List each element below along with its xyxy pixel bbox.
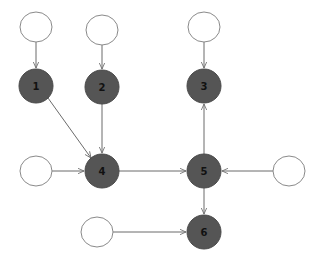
- graph-canvas: 1 2 3 4 5 6: [0, 0, 316, 259]
- node-2-label: 2: [99, 82, 106, 93]
- input-nodes: [20, 12, 305, 247]
- node-5[interactable]: 5: [187, 154, 221, 188]
- node-6-label: 6: [201, 227, 208, 238]
- edges: [36, 42, 273, 232]
- node-4[interactable]: 4: [85, 154, 119, 188]
- node-3[interactable]: 3: [187, 69, 221, 103]
- node-5-label: 5: [201, 166, 208, 177]
- input-node-6[interactable]: [81, 217, 113, 247]
- input-node-2[interactable]: [86, 15, 118, 45]
- node-1[interactable]: 1: [19, 69, 53, 103]
- node-3-label: 3: [201, 81, 208, 92]
- input-node-1[interactable]: [20, 12, 52, 42]
- node-2[interactable]: 2: [85, 70, 119, 104]
- node-6[interactable]: 6: [187, 215, 221, 249]
- input-node-5[interactable]: [273, 156, 305, 186]
- node-4-label: 4: [99, 166, 106, 177]
- edge-n1-n4: [48, 98, 91, 158]
- node-1-label: 1: [33, 81, 40, 92]
- input-node-3[interactable]: [188, 12, 220, 42]
- state-nodes: 1 2 3 4 5 6: [19, 69, 221, 249]
- input-node-4[interactable]: [20, 156, 52, 186]
